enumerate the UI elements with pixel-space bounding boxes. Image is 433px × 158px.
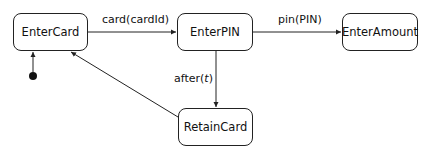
state-label: RetainCard — [184, 120, 248, 134]
state-label: EnterAmount — [342, 25, 418, 39]
transition-label-after: after(t) — [174, 72, 213, 85]
label-suffix: ) — [209, 72, 213, 85]
initial-state-dot — [29, 72, 37, 80]
state-entercard: EnterCard — [13, 13, 88, 51]
transition-retain-to-entercard — [71, 52, 178, 117]
state-label: EnterCard — [22, 25, 80, 39]
state-enteramount: EnterAmount — [342, 13, 418, 51]
transition-label-pin: pin(PIN) — [278, 13, 322, 26]
label-prefix: after( — [174, 72, 204, 85]
state-retaincard: RetainCard — [178, 108, 253, 146]
state-enterpin: EnterPIN — [177, 13, 253, 51]
state-label: EnterPIN — [190, 25, 240, 39]
transition-label-card: card(cardId) — [102, 13, 169, 26]
